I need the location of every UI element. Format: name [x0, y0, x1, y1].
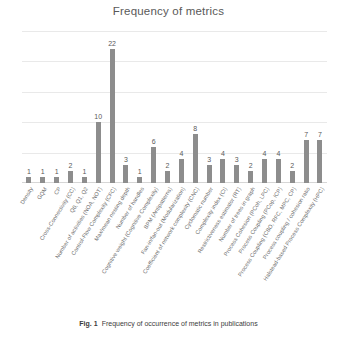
- bar-item: 7: [313, 31, 327, 183]
- bar-value-label: 2: [69, 162, 73, 170]
- bar-rect: [234, 165, 239, 183]
- bar-rect: [137, 177, 142, 183]
- bar-value-label: 3: [207, 156, 211, 164]
- bar-value-label: 1: [82, 168, 86, 176]
- bar-item: 1: [77, 31, 91, 183]
- bar-rect: [248, 171, 253, 183]
- bar-item: 10: [91, 31, 105, 183]
- bar-rect: [220, 159, 225, 183]
- bar-item: 8: [188, 31, 202, 183]
- bar-value-label: 3: [235, 156, 239, 164]
- bar-rect: [262, 159, 267, 183]
- bar-value-label: 2: [166, 162, 170, 170]
- bar-rect: [290, 171, 295, 183]
- bar-item: 3: [119, 31, 133, 183]
- bar-rect: [82, 177, 87, 183]
- bar-item: 3: [202, 31, 216, 183]
- bar-item: 2: [161, 31, 175, 183]
- bar-rect: [96, 122, 101, 183]
- bar-item: 1: [50, 31, 64, 183]
- bar-rect: [123, 165, 128, 183]
- bar-value-label: 22: [108, 40, 116, 48]
- bar-item: 4: [258, 31, 272, 183]
- category-label: CP: [52, 186, 61, 196]
- bar-value-label: 1: [55, 168, 59, 176]
- bar-value-label: 1: [27, 168, 31, 176]
- bar-value-label: 7: [304, 131, 308, 139]
- bar-value-label: 8: [193, 125, 197, 133]
- bar-rect: [317, 140, 322, 183]
- bar-value-label: 7: [318, 131, 322, 139]
- bar-item: 4: [271, 31, 285, 183]
- bar-item: 4: [174, 31, 188, 183]
- bar-item: 2: [285, 31, 299, 183]
- bar-item: 1: [22, 31, 36, 183]
- bar-item: 3: [230, 31, 244, 183]
- bar-item: 7: [299, 31, 313, 183]
- bar-rect: [151, 147, 156, 183]
- bar-value-label: 1: [41, 168, 45, 176]
- caption-label: Fig. 1: [79, 320, 97, 327]
- category-label: Density: [19, 186, 34, 205]
- bar-value-label: 4: [276, 150, 280, 158]
- bar-item: 22: [105, 31, 119, 183]
- bar-value-label: 2: [249, 162, 253, 170]
- bar-value-label: 4: [221, 150, 225, 158]
- bar-item: 4: [216, 31, 230, 183]
- bar-rect: [110, 49, 115, 183]
- bar-rect: [193, 134, 198, 183]
- chart-title: Frequency of metrics: [0, 5, 337, 17]
- bar-rect: [68, 171, 73, 183]
- bar-rect: [207, 165, 212, 183]
- bar-rect: [276, 159, 281, 183]
- bar-item: 1: [36, 31, 50, 183]
- bar-value-label: 6: [152, 138, 156, 146]
- bar-item: 2: [244, 31, 258, 183]
- bar-item: 2: [64, 31, 78, 183]
- bar-rect: [54, 177, 59, 183]
- bar-value-label: 10: [94, 113, 102, 121]
- bar-item: 6: [147, 31, 161, 183]
- bar-value-label: 4: [179, 150, 183, 158]
- bar-value-label: 4: [263, 150, 267, 158]
- bar-rect: [304, 140, 309, 183]
- bar-item: 1: [133, 31, 147, 183]
- bar-rect: [165, 171, 170, 183]
- figure-container: Frequency of metrics 1112110223162483432…: [0, 0, 337, 338]
- bar-series: 111211022316248343244277: [22, 31, 327, 183]
- category-tick: GQM: [36, 184, 50, 314]
- x-axis-category-labels: DensityGQMCPCross-Connectivity (CC)Q0, Q…: [22, 184, 327, 314]
- bar-value-label: 2: [290, 162, 294, 170]
- figure-caption: Fig. 1Frequency of occurrence of metrics…: [0, 320, 337, 327]
- category-tick: Halstead-based Process Complexity (HPC): [313, 184, 327, 314]
- bar-value-label: 1: [138, 168, 142, 176]
- bar-value-label: 3: [124, 156, 128, 164]
- bar-rect: [26, 177, 31, 183]
- category-label: GQM: [36, 186, 48, 201]
- category-tick: Density: [22, 184, 36, 314]
- bar-rect: [179, 159, 184, 183]
- caption-text: Frequency of occurrence of metrics in pu…: [102, 320, 258, 327]
- bar-rect: [40, 177, 45, 183]
